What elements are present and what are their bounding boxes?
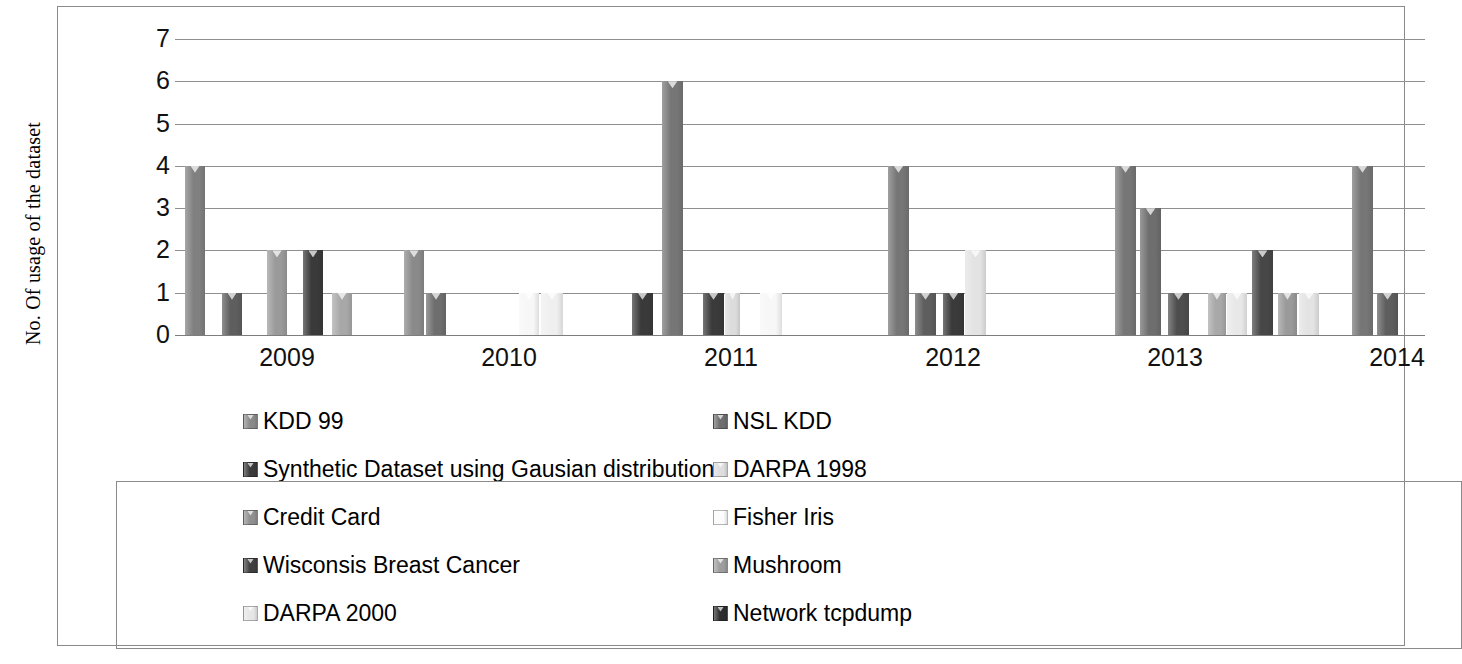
bar	[426, 293, 446, 335]
legend-row: Credit CardFisher Iris	[243, 493, 1293, 541]
x-tick-label-2010: 2010	[481, 343, 537, 372]
y-tick-label: 0	[130, 322, 170, 347]
legend-swatch-icon	[713, 606, 728, 621]
legend-swatch-icon	[243, 462, 258, 477]
legend-label: NSL KDD	[733, 410, 832, 433]
gridline-7	[175, 39, 1425, 40]
y-axis-title: No. Of usage of the dataset	[22, 104, 45, 364]
x-tick-label-2014: 2014	[1369, 343, 1425, 372]
legend-label: DARPA 2000	[263, 602, 397, 625]
bar	[1140, 208, 1161, 335]
legend-row: Synthetic Dataset using Gausian distribu…	[243, 445, 1293, 493]
legend-label: Fisher Iris	[733, 506, 834, 529]
legend-label: Wisconsis Breast Cancer	[263, 554, 520, 577]
y-tick-label: 4	[130, 153, 170, 178]
gridline-5	[175, 124, 1425, 125]
chart-legend: KDD 99NSL KDDSynthetic Dataset using Gau…	[243, 397, 1293, 637]
plot-area: 01234567	[175, 39, 1425, 335]
legend-swatch-icon	[243, 606, 258, 621]
chart-frame: 01234567 200920102011201220132014 KDD 99…	[57, 6, 1405, 646]
legend-label: DARPA 1998	[733, 458, 867, 481]
bar	[1227, 293, 1247, 335]
legend-item[interactable]: Credit Card	[243, 506, 713, 529]
bar	[760, 293, 782, 335]
legend-swatch-icon	[243, 414, 258, 429]
legend-item[interactable]: DARPA 2000	[243, 602, 713, 625]
x-tick-label-2009: 2009	[259, 343, 315, 372]
bar	[222, 293, 242, 335]
bar	[943, 293, 964, 335]
bar	[1168, 293, 1189, 335]
bar	[1352, 166, 1373, 335]
legend-row: DARPA 2000Network tcpdump	[243, 589, 1293, 637]
bar	[519, 293, 539, 335]
legend-label: KDD 99	[263, 410, 344, 433]
bar	[888, 166, 909, 335]
bar	[332, 293, 352, 335]
gridline-4	[175, 166, 1425, 167]
bar	[185, 166, 205, 335]
y-tick-label: 6	[130, 68, 170, 93]
plot-inner: 01234567	[175, 39, 1425, 335]
x-tick-label-2012: 2012	[925, 343, 981, 372]
bar	[541, 293, 563, 335]
legend-item[interactable]: Fisher Iris	[713, 506, 1193, 529]
bar	[267, 250, 287, 335]
bar	[1299, 293, 1319, 335]
legend-label: Synthetic Dataset using Gausian distribu…	[263, 458, 714, 481]
x-axis-labels-group: 200920102011201220132014	[175, 343, 1425, 383]
bar	[1208, 293, 1226, 335]
legend-swatch-icon	[713, 558, 728, 573]
legend-swatch-icon	[713, 510, 728, 525]
gridline-6	[175, 81, 1425, 82]
legend-label: Mushroom	[733, 554, 842, 577]
legend-swatch-icon	[243, 510, 258, 525]
gridline-2	[175, 250, 1425, 251]
bar	[303, 250, 323, 335]
bar	[703, 293, 724, 335]
bar	[662, 81, 683, 335]
legend-swatch-icon	[713, 414, 728, 429]
legend-row: KDD 99NSL KDD	[243, 397, 1293, 445]
legend-label: Credit Card	[263, 506, 381, 529]
legend-item[interactable]: NSL KDD	[713, 410, 1193, 433]
gridline-0	[175, 335, 1425, 336]
legend-row: Wisconsis Breast CancerMushroom	[243, 541, 1293, 589]
legend-item[interactable]: KDD 99	[243, 410, 713, 433]
x-tick-label-2011: 2011	[704, 343, 758, 372]
y-tick-label: 5	[130, 111, 170, 136]
y-tick-label: 2	[130, 237, 170, 262]
bar	[1377, 293, 1398, 335]
legend-item[interactable]: DARPA 1998	[713, 458, 1193, 481]
legend-swatch-icon	[243, 558, 258, 573]
y-tick-label: 3	[130, 195, 170, 220]
legend-item[interactable]: Mushroom	[713, 554, 1193, 577]
x-tick-label-2013: 2013	[1147, 343, 1203, 372]
bar	[404, 250, 424, 335]
y-tick-label: 7	[130, 26, 170, 51]
bar	[965, 250, 986, 335]
legend-item[interactable]: Network tcpdump	[713, 602, 1193, 625]
legend-label: Network tcpdump	[733, 602, 912, 625]
gridline-3	[175, 208, 1425, 209]
bar	[1115, 166, 1136, 335]
y-tick-label: 1	[130, 280, 170, 305]
legend-item[interactable]: Wisconsis Breast Cancer	[243, 554, 713, 577]
legend-swatch-icon	[713, 462, 728, 477]
legend-item[interactable]: Synthetic Dataset using Gausian distribu…	[243, 458, 713, 481]
bar	[1252, 250, 1273, 335]
bar	[915, 293, 936, 335]
bar	[632, 293, 653, 335]
bar	[1278, 293, 1297, 335]
bar	[725, 293, 740, 335]
